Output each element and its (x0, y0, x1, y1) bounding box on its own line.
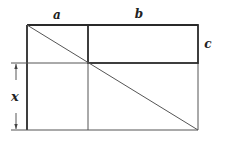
label-a: a (53, 8, 61, 22)
label-c: c (204, 37, 212, 51)
rectangle-bc (88, 25, 198, 63)
label-b: b (135, 7, 143, 21)
arrowhead-up-icon (14, 64, 17, 69)
diagonal-line (27, 25, 198, 130)
label-x: x (10, 89, 19, 104)
arrowhead-down-icon (14, 124, 17, 129)
geometry-diagram: a b c x (0, 0, 225, 148)
